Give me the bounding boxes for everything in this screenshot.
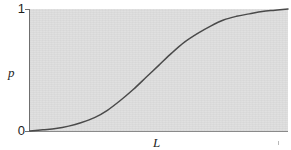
sigmoid-figure: 1 0 p L [0,0,291,150]
curve-svg [0,0,291,150]
sigmoid-curve [30,9,288,131]
